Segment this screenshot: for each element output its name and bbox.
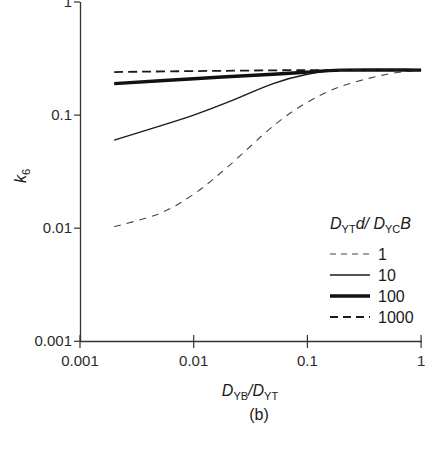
y-tick-label: 0.01 <box>43 219 72 236</box>
legend-label-1: 1 <box>378 246 387 263</box>
y-axis-title: k6 <box>12 169 32 183</box>
y-tick-label: 0.1 <box>51 106 72 123</box>
legend-entries: 1101001000 <box>330 246 414 326</box>
legend-label-1000: 1000 <box>378 309 414 326</box>
legend-title: DYTd/ DYCB <box>330 215 411 235</box>
chart: 0.0010.010.11 0.0010.010.11 k6 DYB/DYT (… <box>0 0 448 463</box>
x-ticks: 0.0010.010.11 <box>61 335 425 369</box>
x-tick-label: 0.1 <box>297 352 318 369</box>
legend-label-10: 10 <box>378 267 396 284</box>
series-group <box>114 70 421 227</box>
figure-caption: (b) <box>249 406 269 423</box>
legend-label-100: 100 <box>378 288 405 305</box>
legend: DYTd/ DYCB 1101001000 <box>330 215 414 326</box>
axes: 0.0010.010.11 0.0010.010.11 <box>34 0 425 369</box>
series-line-1 <box>114 70 421 227</box>
x-tick-label: 1 <box>417 352 425 369</box>
y-tick-label: 0.001 <box>34 332 72 349</box>
x-axis-title: DYB/DYT <box>222 382 279 402</box>
x-tick-label: 0.001 <box>61 352 99 369</box>
x-tick-label: 0.01 <box>179 352 208 369</box>
y-tick-label: 1 <box>64 0 72 10</box>
y-ticks: 0.0010.010.11 <box>34 0 80 349</box>
